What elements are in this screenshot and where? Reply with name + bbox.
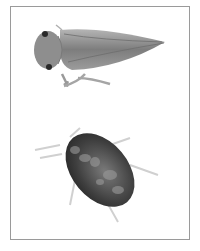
mite-figure bbox=[35, 120, 158, 222]
leafhopper-figure bbox=[34, 25, 165, 86]
insect-illustration bbox=[0, 0, 200, 251]
